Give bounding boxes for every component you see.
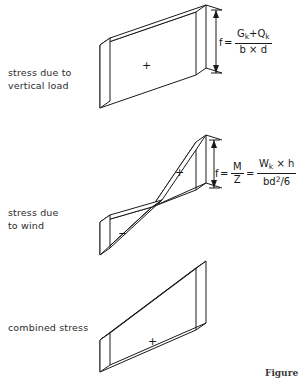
sign-plus-combined: +: [148, 336, 157, 347]
formula2-num-W-sub: k: [269, 162, 273, 171]
formula1-den-d: d: [261, 44, 267, 55]
formula2-num-W: W: [259, 158, 269, 169]
formula1-num-G: G: [237, 28, 245, 39]
block1-dim-ext-top: [206, 5, 222, 10]
label-wind-line1: stress due: [8, 207, 59, 218]
formula2-den-bd: bd: [263, 176, 276, 187]
formula2-equals-1: =: [220, 168, 228, 179]
block2-dim-ext-top: [206, 135, 222, 140]
label-vertical-line1: stress due to: [8, 67, 72, 78]
sign-plus-vertical-load: +: [142, 60, 151, 71]
formula2-num-times: ×: [276, 158, 284, 169]
formula1-den-b: b: [240, 44, 246, 55]
label-stress-due-to-vertical-load: stress due to vertical load: [8, 66, 72, 92]
formula1-numerator: Gk+Qk: [235, 28, 272, 44]
formula2-num-M: M: [231, 161, 244, 174]
formula2-denominator: bd2/6: [261, 174, 292, 188]
block3-right-edge: [196, 261, 206, 330]
label-stress-due-to-wind: stress due to wind: [8, 206, 59, 232]
formula1-num-Q-sub: k: [265, 32, 269, 41]
formula2-lhs: f: [215, 168, 219, 179]
block2-lower-left-end-face: [100, 215, 110, 255]
formula1-lhs: f: [219, 37, 223, 48]
formula2-num-h: h: [288, 158, 294, 169]
formula2-den-over6: /6: [281, 176, 291, 187]
formula2-fraction-MZ: M Z: [231, 161, 244, 186]
formula1-den-times: ×: [249, 44, 257, 55]
block3-front-face: [100, 268, 196, 372]
block3-left-end-face: [100, 333, 110, 372]
formula2-den-Z: Z: [232, 174, 243, 186]
formula-vertical-load: f = Gk+Qk b × d: [219, 28, 273, 56]
formula1-fraction: Gk+Qk b × d: [235, 28, 272, 56]
block1-left-end-face: [100, 38, 110, 108]
formula1-denominator: b × d: [238, 44, 269, 56]
block1-dim-ext-bottom: [206, 68, 222, 73]
formula1-equals: =: [224, 37, 232, 48]
label-combined-stress: combined stress: [8, 321, 88, 334]
formula2-equals-2: =: [246, 168, 254, 179]
block2-dim-arrow-top: [211, 140, 217, 148]
stress-diagram-figure: stress due to vertical load stress due t…: [0, 0, 301, 381]
sign-plus-wind: +: [175, 167, 184, 178]
figure-caption-partial: Figure: [265, 368, 301, 379]
block1-right-edge: [196, 5, 206, 75]
label-wind-line2: to wind: [8, 220, 44, 231]
sign-minus-wind: −: [118, 228, 127, 239]
label-vertical-line2: vertical load: [8, 80, 69, 91]
formula-wind: f = M Z = Wk × h bd2/6: [215, 158, 297, 188]
label-combined-line1: combined stress: [8, 322, 88, 333]
formula2-numerator: Wk × h: [257, 158, 296, 174]
block1-dim-arrow-top: [213, 10, 219, 18]
formula2-fraction-main: Wk × h bd2/6: [257, 158, 296, 188]
